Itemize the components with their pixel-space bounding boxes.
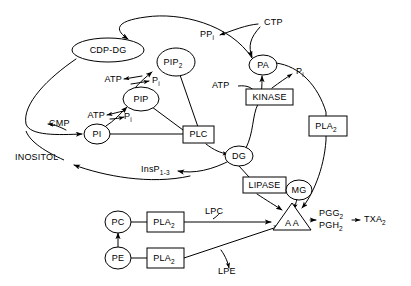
label-inositol: INOSITOL xyxy=(15,152,58,162)
label-lpc: LPC xyxy=(205,206,223,216)
node-pla2-pe[interactable]: PLA2 xyxy=(147,248,184,268)
node-label-aa: A A xyxy=(285,218,299,228)
edge-pip2-to-plc xyxy=(180,75,198,127)
edge-pip-to-pip2 xyxy=(135,72,152,88)
node-label-pa: PA xyxy=(257,60,269,70)
edge-dg-to-lipase xyxy=(239,166,249,177)
node-label-pla2-pe: PLA xyxy=(153,253,171,263)
node-label-pla2-pc: PLA xyxy=(153,217,171,227)
edge-pip-atp-in xyxy=(124,76,142,79)
node-sub-pla2-pc: 2 xyxy=(171,221,175,228)
label-ctp: CTP xyxy=(264,17,283,27)
node-sub-pla2-right: 2 xyxy=(333,125,337,132)
node-pi[interactable]: PI xyxy=(84,124,110,144)
label-pgh2: PGH2 xyxy=(319,220,343,231)
node-plc[interactable]: PLC xyxy=(183,126,214,143)
node-sub-pip2: 2 xyxy=(179,61,183,68)
edge-lipase-to-aa xyxy=(257,194,282,210)
label-pgg2: PGG2 xyxy=(319,208,344,219)
edge-plc-to-insp xyxy=(178,160,231,172)
edge-lpe-tick xyxy=(221,250,229,268)
node-aa[interactable]: A A xyxy=(273,203,311,230)
node-pla2-right[interactable]: PLA2 xyxy=(309,116,347,136)
node-kinase[interactable]: KINASE xyxy=(246,89,293,105)
edge-kinase-to-phosphate xyxy=(272,74,292,88)
edge-ctp-to-pa xyxy=(250,27,260,57)
label-ppi: PPi xyxy=(200,29,214,40)
edge-insp-to-inositol xyxy=(74,165,190,180)
node-label-pip: PIP xyxy=(133,94,148,104)
node-label-lipase: LIPASE xyxy=(248,180,280,190)
node-lipase[interactable]: LIPASE xyxy=(243,177,286,193)
label-phosphate-pip2: Pi xyxy=(152,75,160,86)
label-atp-pip: ATP xyxy=(88,110,105,120)
label-lpe: LPE xyxy=(218,266,236,276)
label-atp-pa: ATP xyxy=(212,80,229,90)
edge-pla2pe-to-aa xyxy=(184,226,280,258)
node-pa[interactable]: PA xyxy=(249,55,277,75)
node-pe[interactable]: PE xyxy=(105,247,131,269)
node-sub-pla2-pe: 2 xyxy=(171,257,175,264)
edge-plc-to-dg xyxy=(206,144,228,154)
node-label-mg: MG xyxy=(292,185,307,195)
node-label-cdp-dg: CDP-DG xyxy=(90,45,127,55)
label-cmp: CMP xyxy=(49,118,70,128)
node-label-dg: DG xyxy=(232,151,246,161)
pathway-diagram: CDP-DG PIP2 PIP PI PLC DG xyxy=(0,0,411,286)
label-phosphate-pip: Pi xyxy=(124,111,132,122)
node-dg[interactable]: DG xyxy=(225,146,253,166)
node-label-pe: PE xyxy=(112,253,124,263)
node-label-kinase: KINASE xyxy=(252,92,286,102)
label-txa2: TXA2 xyxy=(364,214,386,225)
edge-pip-phosphate-out xyxy=(131,81,149,84)
node-pip2[interactable]: PIP2 xyxy=(157,48,195,76)
node-label-pip2: PIP xyxy=(164,57,179,67)
node-pc[interactable]: PC xyxy=(105,211,131,233)
label-insp: InsP1-3 xyxy=(141,164,170,175)
node-pla2-pc[interactable]: PLA2 xyxy=(147,212,184,232)
node-label-pc: PC xyxy=(112,217,125,227)
node-mg[interactable]: MG xyxy=(286,180,312,200)
node-cdp-dg[interactable]: CDP-DG xyxy=(72,38,144,62)
node-label-pi: PI xyxy=(93,129,102,139)
edge-pip-to-plc xyxy=(152,107,183,130)
node-pip[interactable]: PIP xyxy=(123,87,159,111)
node-label-pla2-right: PLA xyxy=(315,121,333,131)
node-label-plc: PLC xyxy=(189,129,207,139)
label-atp-pip2: ATP xyxy=(105,74,122,84)
pathway-canvas: CDP-DG PIP2 PIP PI PLC DG xyxy=(0,0,411,286)
label-phosphate-pa: Pi xyxy=(296,66,304,77)
